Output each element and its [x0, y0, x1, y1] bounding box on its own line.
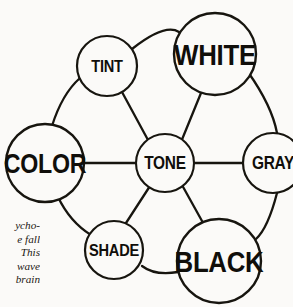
node-label-white: WHITE — [174, 38, 256, 71]
caption-line: e fall — [0, 233, 40, 247]
spoke-tone-shade — [126, 186, 150, 223]
caption-line: ycho- — [0, 219, 40, 233]
node-black[interactable]: BLACK — [175, 219, 264, 303]
rim-shade-color — [58, 197, 91, 235]
rim-gray-black — [256, 193, 277, 239]
spoke-tone-black — [182, 185, 202, 221]
node-gray[interactable]: GRAY — [243, 133, 293, 193]
node-color[interactable]: COLOR — [4, 124, 87, 202]
caption-line: This — [0, 246, 40, 260]
node-white[interactable]: WHITE — [174, 13, 256, 95]
node-layer: TINTWHITEGRAYBLACKSHADECOLORTONE — [4, 13, 293, 303]
node-tone[interactable]: TONE — [136, 134, 194, 192]
caption-line: wave — [0, 260, 40, 274]
node-label-color: COLOR — [4, 148, 87, 178]
spoke-tone-white — [181, 93, 201, 142]
caption-line: brain — [0, 273, 40, 287]
body-text-fragment: ycho- e fall This wave brain — [0, 219, 40, 287]
rim-white-gray — [248, 72, 277, 133]
node-tint[interactable]: TINT — [77, 36, 137, 96]
node-shade[interactable]: SHADE — [85, 221, 143, 279]
rim-color-tint — [52, 78, 80, 126]
node-label-black: BLACK — [175, 245, 264, 278]
node-label-shade: SHADE — [89, 241, 139, 259]
node-label-tint: TINT — [91, 57, 123, 75]
rim-tint-white — [132, 30, 179, 49]
node-label-tone: TONE — [144, 153, 186, 173]
color-wheel-diagram: TINTWHITEGRAYBLACKSHADECOLORTONE — [0, 0, 293, 307]
diagram-canvas: TINTWHITEGRAYBLACKSHADECOLORTONE ycho- e… — [0, 0, 293, 307]
rim-black-shade — [142, 266, 178, 273]
spoke-tone-tint — [122, 92, 148, 140]
node-label-gray: GRAY — [252, 153, 293, 173]
